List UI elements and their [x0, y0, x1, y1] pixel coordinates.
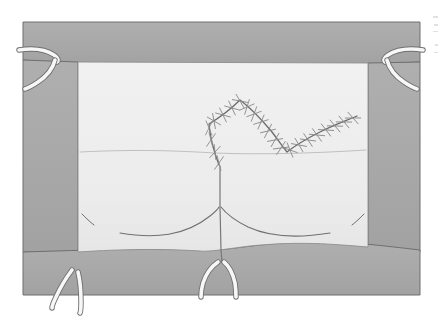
right-drape-panel	[368, 62, 420, 252]
surgical-field-illustration: Surgical field illustration Line-art med…	[0, 0, 442, 324]
scan-artifact	[435, 44, 438, 46]
upper-drape-band	[23, 22, 420, 65]
illustration-stage: Surgical field illustration Line-art med…	[0, 0, 442, 324]
scan-artifact	[434, 24, 438, 26]
scan-artifact	[433, 31, 438, 32]
scan-artifact	[434, 52, 438, 53]
scan-artifact	[433, 16, 438, 18]
